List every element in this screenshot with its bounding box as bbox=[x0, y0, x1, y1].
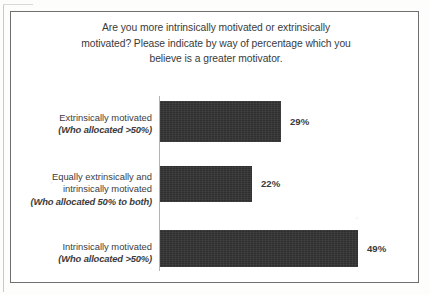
outer-scan-rule-top bbox=[3, 4, 33, 5]
bar-value-label: 49% bbox=[367, 243, 386, 254]
category-label-line: Equally extrinsically and bbox=[2, 171, 152, 183]
bar-value-label: 29% bbox=[290, 116, 309, 127]
bar-value-label: 22% bbox=[261, 178, 280, 189]
chart-frame: Are you more intrinsically motivated or … bbox=[10, 11, 419, 283]
category-label: Equally extrinsically and intrinsically … bbox=[2, 171, 152, 208]
category-label-note: (Who allocated 50% to both) bbox=[2, 196, 152, 208]
category-label-line: intrinsically motivated bbox=[2, 183, 152, 195]
category-label-line: Extrinsically motivated bbox=[2, 112, 152, 124]
bar-intrinsically-motivated bbox=[160, 230, 358, 267]
category-label-line: Intrinsically motivated bbox=[2, 241, 152, 253]
category-label: Extrinsically motivated (Who allocated >… bbox=[2, 112, 152, 137]
category-label-note: (Who allocated >50%) bbox=[2, 253, 152, 265]
category-label-note: (Who allocated >50%) bbox=[2, 124, 152, 136]
category-label: Intrinsically motivated (Who allocated >… bbox=[2, 241, 152, 266]
plot-area: Extrinsically motivated (Who allocated >… bbox=[11, 12, 420, 284]
bar-equally-motivated bbox=[160, 166, 252, 202]
bar-extrinsically-motivated bbox=[160, 101, 281, 142]
